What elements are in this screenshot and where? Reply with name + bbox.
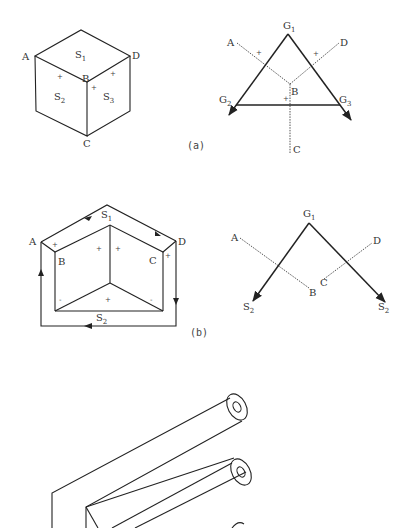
plus-sign: + — [105, 296, 111, 304]
node-g1-label: G1 — [283, 20, 295, 34]
plus-sign: + — [115, 245, 121, 253]
minus-sign: - — [59, 296, 62, 304]
tubes-figure — [52, 390, 256, 528]
edge-a-label: A — [226, 37, 235, 48]
node-g1-label: G1 — [303, 208, 315, 222]
plus-sign: + — [52, 241, 58, 249]
face-s3-label: S3 — [103, 91, 114, 105]
graph-figure-b: G1 S2 S2 A B C D — [230, 208, 389, 315]
vertex-c-label: C — [83, 138, 91, 149]
graph-figure-a: G1 G2 G3 A D B C + + + — [219, 20, 351, 155]
face-s1-label: S1 — [75, 49, 86, 63]
plus-sign: + — [57, 73, 63, 81]
vertex-d-label: D — [178, 236, 186, 247]
plus-sign: + — [165, 252, 171, 260]
face-s2-label: S2 — [96, 312, 107, 326]
face-s1-label: S1 — [101, 209, 112, 223]
plus-sign: + — [96, 245, 102, 253]
plus-sign: + — [91, 84, 97, 92]
plus-sign: + — [110, 70, 116, 78]
node-s2-left-label: S2 — [243, 301, 254, 315]
prism-figure-b: A B C D S1 S2 + + + + - + - — [28, 205, 186, 329]
cube-figure-a: A D B C S1 S2 S3 + + + — [21, 30, 140, 149]
edge-b-label: B — [309, 287, 316, 298]
vertex-a-label: A — [21, 51, 30, 62]
vertex-c-label: C — [149, 255, 157, 266]
edge-a-label: A — [230, 232, 239, 243]
plus-sign: + — [256, 49, 262, 57]
node-g2-label: G2 — [219, 94, 231, 108]
caption-b: (b) — [190, 327, 208, 338]
diagram-canvas: A D B C S1 S2 S3 + + + G1 G2 G3 A D B C … — [0, 0, 408, 528]
vertex-b-label: B — [58, 256, 65, 267]
plus-sign: + — [313, 50, 319, 58]
plus-sign: + — [283, 95, 289, 103]
caption-a: (a) — [187, 140, 205, 151]
edge-c-label: C — [293, 144, 301, 155]
edge-d-label: D — [340, 37, 348, 48]
node-s2-right-label: S2 — [378, 301, 389, 315]
edge-c-label: C — [320, 277, 328, 288]
vertex-a-label: A — [28, 236, 37, 247]
vertex-b-label: B — [82, 73, 89, 84]
edge-b-label: B — [291, 86, 298, 97]
vertex-d-label: D — [132, 50, 140, 61]
edge-d-label: D — [373, 235, 381, 246]
minus-sign: - — [150, 296, 153, 304]
face-s2-label: S2 — [54, 91, 65, 105]
